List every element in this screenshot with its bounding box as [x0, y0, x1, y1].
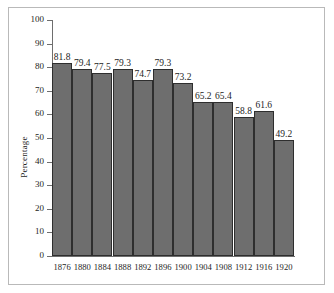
y-tick-40: 40: [0, 162, 52, 163]
bar-value-label: 74.7: [134, 69, 151, 80]
y-tick-60: 60: [0, 114, 52, 115]
y-tick-label: 20: [35, 202, 44, 215]
x-tick-label-1904: 1904: [193, 262, 213, 273]
x-tick-label-1900: 1900: [173, 262, 193, 273]
y-tick-0: 0: [0, 256, 52, 257]
bar-value-label: 61.6: [255, 100, 272, 111]
y-tick-label: 30: [35, 178, 44, 191]
y-tick-label: 0: [40, 249, 45, 262]
x-tick-label-1908: 1908: [213, 262, 233, 273]
bar-1912[interactable]: 58.8: [234, 117, 254, 256]
bar-value-label: 79.3: [155, 58, 172, 69]
x-tick-label-1880: 1880: [72, 262, 92, 273]
x-tick-label-1892: 1892: [133, 262, 153, 273]
bar-1888[interactable]: 79.3: [113, 69, 133, 256]
y-tick-label: 80: [35, 60, 44, 73]
y-tick-70: 70: [0, 91, 52, 92]
bar-value-label: 58.8: [235, 106, 252, 117]
bar-value-label: 77.5: [94, 62, 111, 73]
bar-chart-figure: Percentage 0102030405060708090100 81.879…: [0, 0, 334, 293]
bar-1884[interactable]: 77.5: [92, 73, 112, 256]
y-tick-label: 10: [35, 225, 44, 238]
y-tick-20: 20: [0, 209, 52, 210]
bar-1896[interactable]: 79.3: [153, 69, 173, 256]
x-tick-label-1896: 1896: [153, 262, 173, 273]
x-tick-label-1916: 1916: [254, 262, 274, 273]
y-tick-label: 40: [35, 155, 44, 168]
y-tick-label: 100: [31, 13, 45, 26]
y-axis-title: Percentage: [19, 57, 33, 257]
y-tick-label: 90: [35, 37, 44, 50]
x-tick-label-1920: 1920: [274, 262, 294, 273]
y-tick-label: 70: [35, 84, 44, 97]
bar-1892[interactable]: 74.7: [133, 80, 153, 256]
plot-area: 81.879.477.579.374.779.373.265.265.458.8…: [52, 20, 294, 256]
y-tick-90: 90: [0, 44, 52, 45]
bar-value-label: 65.2: [195, 91, 212, 102]
x-tick-label-1884: 1884: [92, 262, 112, 273]
bar-1876[interactable]: 81.8: [52, 63, 72, 256]
bar-value-label: 49.2: [276, 129, 293, 140]
y-tick-10: 10: [0, 232, 52, 233]
y-tick-30: 30: [0, 185, 52, 186]
bar-1920[interactable]: 49.2: [274, 140, 294, 256]
bar-value-label: 65.4: [215, 91, 232, 102]
bar-1916[interactable]: 61.6: [254, 111, 274, 256]
x-axis-line: [52, 256, 295, 257]
x-tick-label-1876: 1876: [52, 262, 72, 273]
bar-1904[interactable]: 65.2: [193, 102, 213, 256]
x-tick-label-1912: 1912: [234, 262, 254, 273]
bar-1908[interactable]: 65.4: [213, 102, 233, 256]
x-tick-label-1888: 1888: [113, 262, 133, 273]
y-tick-80: 80: [0, 67, 52, 68]
bar-1900[interactable]: 73.2: [173, 83, 193, 256]
bar-value-label: 79.3: [114, 58, 131, 69]
bar-value-label: 79.4: [74, 58, 91, 69]
y-tick-50: 50: [0, 138, 52, 139]
y-tick-100: 100: [0, 20, 52, 21]
bar-value-label: 81.8: [54, 52, 71, 63]
y-tick-label: 60: [35, 107, 44, 120]
bar-value-label: 73.2: [175, 72, 192, 83]
y-tick-label: 50: [35, 131, 44, 144]
bar-1880[interactable]: 79.4: [72, 69, 92, 256]
